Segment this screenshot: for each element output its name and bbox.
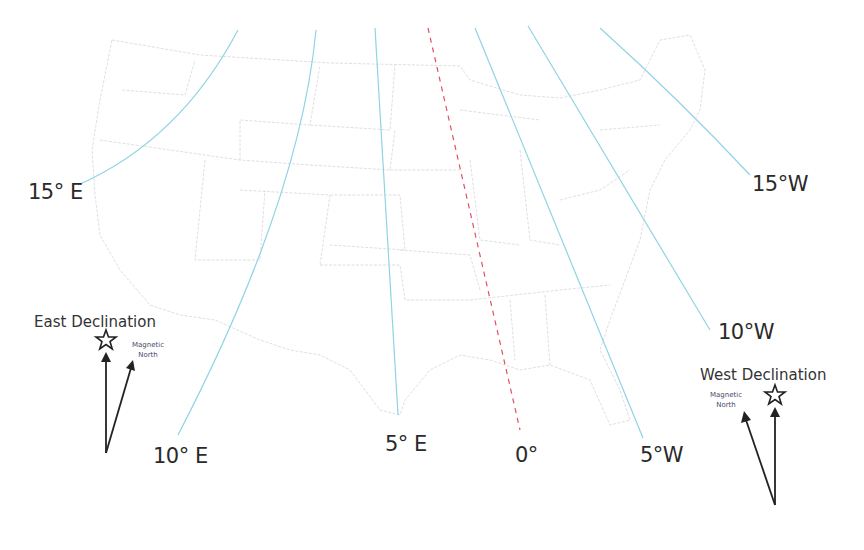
isogonic-line-5w (475, 28, 643, 438)
east-magnetic-north-label: Magnetic North (128, 340, 168, 360)
isogonic-line-10w (528, 26, 710, 330)
isogonic-line-15w (600, 28, 750, 175)
magnetic-text: Magnetic (706, 390, 746, 400)
north-text: North (706, 400, 746, 410)
west-magnetic-north-label: Magnetic North (706, 390, 746, 410)
label-15e: 15° E (28, 180, 83, 204)
label-10e: 10° E (153, 444, 208, 468)
west-declination-title: West Declination (700, 366, 826, 384)
label-15w: 15°W (752, 172, 808, 196)
isogonic-line-15e (78, 30, 238, 185)
label-0: 0° (515, 443, 538, 467)
west-declination-diagram (741, 385, 785, 505)
north-text: North (128, 350, 168, 360)
star-icon (765, 385, 785, 404)
east-declination-title: East Declination (34, 313, 156, 331)
isogonic-line-5e (375, 28, 398, 415)
agonic-line-0 (428, 28, 520, 430)
isogonic-lines (78, 26, 750, 438)
declination-map (0, 0, 864, 550)
us-state-borders (92, 35, 705, 425)
star-icon (96, 330, 116, 349)
label-10w: 10°W (718, 320, 774, 344)
magnetic-text: Magnetic (128, 340, 168, 350)
label-5w: 5°W (640, 443, 683, 467)
label-5e: 5° E (385, 432, 427, 456)
